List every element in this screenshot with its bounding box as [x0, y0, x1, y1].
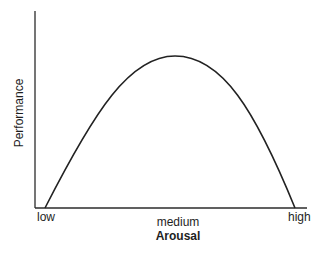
- x-tick-high: high: [288, 210, 311, 224]
- y-axis-title: Performance: [12, 78, 26, 147]
- x-tick-low: low: [37, 210, 55, 224]
- x-tick-medium: medium: [157, 215, 200, 229]
- x-axis-title: Arousal: [156, 229, 201, 243]
- chart: low medium high Arousal Performance: [0, 0, 327, 256]
- performance-curve: [45, 56, 295, 208]
